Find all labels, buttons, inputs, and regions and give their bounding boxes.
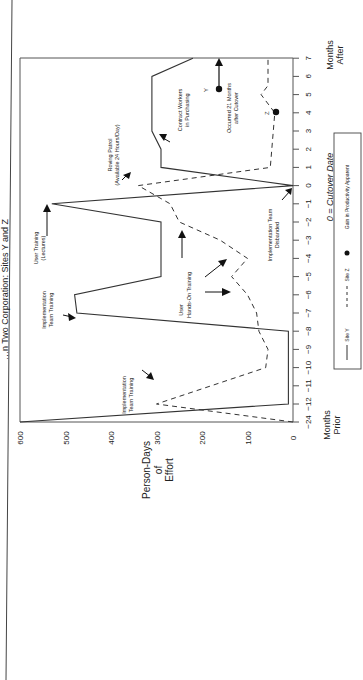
y-tick-label: 100 xyxy=(244,431,253,445)
x-tick-label: −5 xyxy=(304,271,313,281)
svg-text:Team Training: Team Training xyxy=(128,378,134,413)
annotation-contract-workers: Contract Workers in Purchasing xyxy=(159,88,190,142)
series-site-y xyxy=(20,58,293,422)
legend-site-y-label: Site Y xyxy=(344,328,350,342)
months-after-label-2: After xyxy=(335,45,345,64)
x-tick-label: −6 xyxy=(304,290,313,300)
annotation-roving-patrol: Roving Patrol (Available 24 Hours/Day) xyxy=(107,124,131,185)
x-tick-label: 5 xyxy=(304,92,313,97)
svg-text:in Purchasing: in Purchasing xyxy=(184,93,190,126)
y-tick-label: 300 xyxy=(153,431,162,445)
y-tick-label: 0 xyxy=(289,435,298,440)
svg-text:(Lectures): (Lectures) xyxy=(40,235,46,260)
x-tick-label: −7 xyxy=(304,308,313,318)
x-tick-label: −4 xyxy=(304,253,313,263)
y-tick-label: 400 xyxy=(107,431,116,445)
legend-dot-swatch xyxy=(345,251,350,256)
arrow-head-icon xyxy=(178,230,186,238)
annotation-user-hands-on-training: User Hands-On Training xyxy=(178,230,231,318)
y-axis-label-3: Effort xyxy=(164,458,175,482)
x-tick-label: −3 xyxy=(304,235,313,245)
annotation-user-training-lectures: User Training (Lectures) xyxy=(33,204,51,264)
svg-text:(Available 24 Hours/Day): (Available 24 Hours/Day) xyxy=(114,124,120,185)
x-tick-label: −12 xyxy=(304,397,313,411)
svg-text:Roving Patrol: Roving Patrol xyxy=(107,138,113,171)
plot-area xyxy=(20,58,293,422)
months-prior-label-1: Months xyxy=(322,410,332,440)
arrow-up-icon xyxy=(215,58,223,66)
y-axis-ticks: 0100200300400500600 xyxy=(16,431,298,445)
y-tick-label: 600 xyxy=(16,431,25,445)
cutover-label: 0 = Cutover Date xyxy=(325,153,335,221)
svg-text:Implementation: Implementation xyxy=(121,376,127,414)
marker-z-label: Z xyxy=(264,111,270,115)
y-axis-label-1: Person-Days xyxy=(141,441,152,499)
legend-dot-label: Gain in Productivity Apparent xyxy=(344,164,350,229)
x-tick-label: −8 xyxy=(304,326,313,336)
arrow-head-icon xyxy=(68,313,76,321)
x-axis-ticks: −24−12−11−10−9−8−7−6−5−4−3−2−101234567 xyxy=(293,55,313,428)
annotation-impl-team-training-y: Implementation Team Training xyxy=(41,291,76,329)
chart: …n Two Corporation: Sites Y and Z −24−12… xyxy=(0,0,363,680)
svg-text:Team Training: Team Training xyxy=(48,293,54,328)
svg-text:Contract Workers: Contract Workers xyxy=(177,88,183,131)
annotation-occurred-21-months: Occurred 21 Months after Cutover xyxy=(226,83,239,133)
x-tick-label: −2 xyxy=(304,217,313,227)
arrow-head-icon xyxy=(146,372,154,380)
x-tick-label: −24 xyxy=(304,415,313,429)
x-tick-label: 0 xyxy=(304,183,313,188)
x-tick-label: 7 xyxy=(304,55,313,60)
svg-text:Occurred 21 Months: Occurred 21 Months xyxy=(226,83,232,133)
svg-text:Hands-On Training: Hands-On Training xyxy=(186,272,192,318)
annotation-impl-team-disbanded: Implementation Team Disbanded xyxy=(267,188,292,261)
y-tick-label: 500 xyxy=(62,431,71,445)
y-tick-label: 200 xyxy=(198,431,207,445)
svg-text:after Cutover: after Cutover xyxy=(233,92,239,124)
x-tick-label: −1 xyxy=(304,199,313,209)
x-tick-label: 4 xyxy=(304,110,313,115)
x-tick-label: −9 xyxy=(304,344,313,354)
marker-y-label: Y xyxy=(203,88,209,92)
y-axis-label-2: of xyxy=(153,466,164,475)
svg-text:User: User xyxy=(178,304,184,316)
months-prior-label-2: Prior xyxy=(332,415,342,434)
svg-text:Disbanded: Disbanded xyxy=(274,222,280,248)
x-tick-label: −11 xyxy=(304,379,313,393)
arrow-head-icon xyxy=(43,204,51,212)
annotation-impl-team-training-z: Implementation Team Training xyxy=(121,370,154,414)
legend-site-z-label: Site Z xyxy=(344,268,350,281)
svg-text:Implementation Team: Implementation Team xyxy=(267,208,273,261)
svg-text:User Training: User Training xyxy=(33,232,39,265)
x-tick-label: 1 xyxy=(304,165,313,170)
legend: Site Y Site Z Gain in Productivity Appar… xyxy=(334,133,361,369)
arrow-head-icon xyxy=(222,288,231,296)
x-tick-label: 2 xyxy=(304,146,313,151)
svg-text:Implementation: Implementation xyxy=(41,291,47,329)
marker-z-dot xyxy=(273,109,279,115)
months-after-label-1: Months xyxy=(325,40,335,70)
x-tick-label: −10 xyxy=(304,360,313,374)
x-tick-label: 6 xyxy=(304,74,313,79)
arrow-head-icon xyxy=(285,188,292,195)
chart-title: …n Two Corporation: Sites Y and Z xyxy=(0,218,10,360)
x-tick-label: 3 xyxy=(304,128,313,133)
